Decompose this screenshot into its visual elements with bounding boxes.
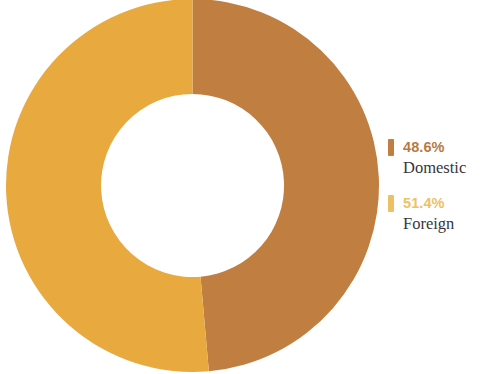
donut-slices (6, 0, 379, 372)
legend-swatch-icon-domestic (388, 139, 394, 156)
legend-label-domestic: Domestic (403, 158, 493, 178)
donut-graphic (0, 0, 386, 374)
donut-slice-foreign[interactable] (6, 0, 209, 372)
legend-label-foreign: Foreign (403, 214, 493, 234)
legend-item-foreign[interactable]: 51.4% Foreign (388, 194, 493, 234)
legend-percent-foreign: 51.4% (403, 195, 445, 212)
legend-swatch-icon-foreign (388, 195, 394, 212)
chart-legend: 48.6% Domestic 51.4% Foreign (388, 138, 493, 250)
donut-chart: 48.6% Domestic 51.4% Foreign (0, 0, 493, 374)
legend-row-foreign: 51.4% (388, 194, 493, 213)
legend-item-domestic[interactable]: 48.6% Domestic (388, 138, 493, 178)
legend-percent-domestic: 48.6% (403, 139, 445, 156)
donut-svg (0, 0, 386, 374)
donut-slice-domestic[interactable] (193, 0, 380, 371)
legend-row-domestic: 48.6% (388, 138, 493, 157)
